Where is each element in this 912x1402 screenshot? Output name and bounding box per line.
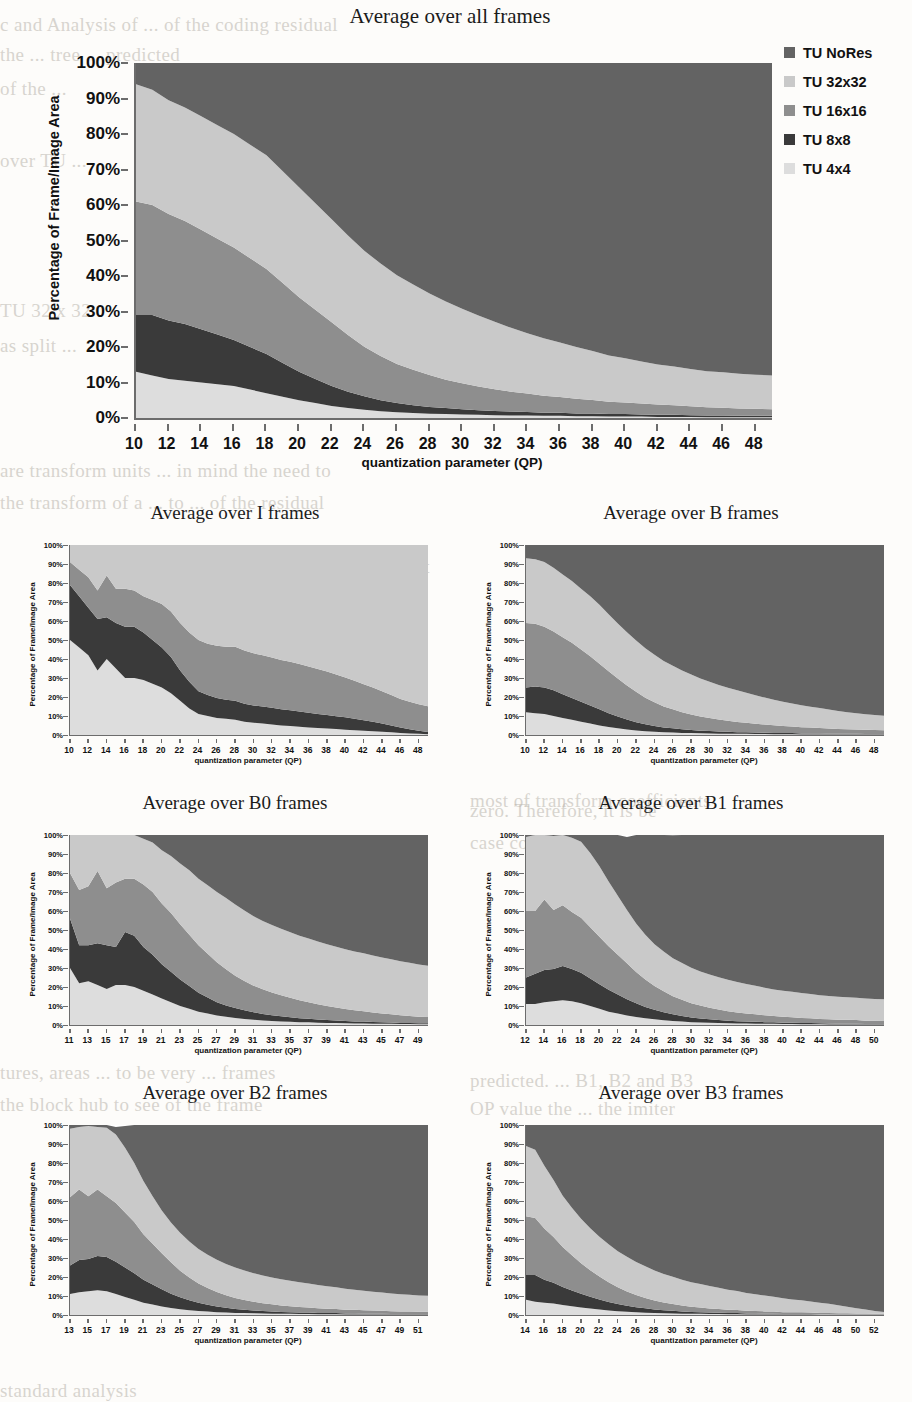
y-tick-label: 90% xyxy=(504,560,519,569)
x-tick-label: 29 xyxy=(229,1035,238,1045)
x-tick-label: 37 xyxy=(303,1035,312,1045)
x-tick-mark xyxy=(234,739,236,743)
x-tick-mark xyxy=(819,1029,821,1033)
legend-item-tu-4x4[interactable]: TU 4x4 xyxy=(784,154,912,183)
x-tick-mark xyxy=(395,424,397,431)
y-tick-mark xyxy=(63,1258,68,1260)
x-tick-mark xyxy=(709,1319,711,1323)
x-tick-mark xyxy=(363,739,365,743)
x-tick-mark xyxy=(69,1029,71,1033)
x-tick-mark xyxy=(617,739,619,743)
y-tick-mark xyxy=(519,545,524,547)
x-tick-mark xyxy=(591,424,593,431)
x-tick-mark xyxy=(493,424,495,431)
x-tick-mark xyxy=(297,424,299,431)
y-tick-mark xyxy=(63,621,68,623)
x-tick-mark xyxy=(598,1319,600,1323)
y-tick-label: 80% xyxy=(504,1159,519,1168)
x-tick-mark xyxy=(363,1029,365,1033)
x-tick-mark xyxy=(525,424,527,431)
stacked-area-series xyxy=(70,1125,428,1315)
y-tick-label: 40% xyxy=(48,1235,63,1244)
y-tick-mark xyxy=(519,1006,524,1008)
x-tick-mark xyxy=(672,739,674,743)
y-tick-label: 50% xyxy=(86,231,120,251)
legend-item-label: TU 8x8 xyxy=(803,132,851,148)
y-tick-label: 40% xyxy=(86,266,120,286)
x-tick-label: 21 xyxy=(138,1325,147,1335)
x-tick-label: 22 xyxy=(630,745,639,755)
x-tick-mark xyxy=(617,1029,619,1033)
x-tick-mark xyxy=(399,739,401,743)
x-tick-mark xyxy=(745,1029,747,1033)
x-tick-label: 46 xyxy=(832,1035,841,1045)
chart-xlabel: quantization parameter (QP) xyxy=(525,1046,883,1055)
x-tick-label: 38 xyxy=(759,1035,768,1045)
x-tick-label: 32 xyxy=(484,435,502,453)
chart-all-frames: Average over all frames Percentage of Fr… xyxy=(0,0,912,485)
legend-item-tu-16x16[interactable]: TU 16x16 xyxy=(784,96,912,125)
y-tick-label: 100% xyxy=(44,541,63,550)
x-tick-label: 27 xyxy=(193,1325,202,1335)
y-tick-mark xyxy=(63,1163,68,1165)
y-tick-mark xyxy=(63,930,68,932)
legend-item-tu-32x32[interactable]: TU 32x32 xyxy=(784,67,912,96)
x-tick-label: 34 xyxy=(741,745,750,755)
y-tick-mark xyxy=(519,930,524,932)
x-tick-label: 16 xyxy=(575,745,584,755)
y-tick-mark xyxy=(63,911,68,913)
chart-all-frames-title: Average over all frames xyxy=(150,4,750,29)
y-tick-mark xyxy=(519,1201,524,1203)
y-tick-mark xyxy=(63,949,68,951)
y-tick-label: 60% xyxy=(86,195,120,215)
x-tick-label: 52 xyxy=(869,1325,878,1335)
x-tick-label: 10 xyxy=(64,745,73,755)
x-tick-label: 31 xyxy=(248,1035,257,1045)
y-tick-mark xyxy=(519,911,524,913)
y-tick-mark xyxy=(63,1220,68,1222)
y-tick-label: 20% xyxy=(48,983,63,992)
y-tick-label: 10% xyxy=(48,1292,63,1301)
x-tick-label: 18 xyxy=(594,745,603,755)
x-tick-label: 44 xyxy=(814,1035,823,1045)
legend-item-tu-nores[interactable]: TU NoRes xyxy=(784,38,912,67)
x-tick-mark xyxy=(399,1319,401,1323)
y-ticks: 0%10%20%30%40%50%60%70%80%90%100% xyxy=(22,1120,67,1320)
x-tick-mark xyxy=(106,739,108,743)
x-tick-mark xyxy=(326,739,328,743)
y-tick-label: 80% xyxy=(48,1159,63,1168)
y-tick-label: 50% xyxy=(504,1216,519,1225)
x-tick-mark xyxy=(179,1029,181,1033)
chart-all-frames-plot-area xyxy=(134,63,772,420)
x-tick-mark xyxy=(855,739,857,743)
x-tick-mark xyxy=(216,739,218,743)
y-tick-label: 70% xyxy=(504,888,519,897)
x-tick-label: 46 xyxy=(814,1325,823,1335)
x-tick-mark xyxy=(142,739,144,743)
x-tick-mark xyxy=(690,1319,692,1323)
x-tick-mark xyxy=(855,1319,857,1323)
y-tick-label: 60% xyxy=(504,1197,519,1206)
x-tick-label: 44 xyxy=(680,435,698,453)
legend-item-tu-8x8[interactable]: TU 8x8 xyxy=(784,125,912,154)
y-tick-mark xyxy=(63,835,68,837)
chart-all-frames-y-ticks: 0%10%20%30%40%50%60%70%80%90%100% xyxy=(36,55,128,427)
y-tick-label: 20% xyxy=(86,337,120,357)
stacked-area-series xyxy=(526,835,884,1025)
x-tick-mark xyxy=(837,1319,839,1323)
x-tick-mark xyxy=(690,1029,692,1033)
x-tick-label: 29 xyxy=(211,1325,220,1335)
x-tick-mark xyxy=(87,1319,89,1323)
x-tick-mark xyxy=(617,1319,619,1323)
x-tick-mark xyxy=(142,1319,144,1323)
x-tick-mark xyxy=(782,1029,784,1033)
x-tick-label: 24 xyxy=(612,1325,621,1335)
x-tick-label: 28 xyxy=(229,745,238,755)
y-tick-mark xyxy=(121,169,128,171)
x-tick-mark xyxy=(234,1029,236,1033)
x-tick-label: 49 xyxy=(413,1035,422,1045)
x-tick-label: 48 xyxy=(851,1035,860,1045)
y-ticks: 0%10%20%30%40%50%60%70%80%90%100% xyxy=(478,830,523,1030)
x-tick-label: 40 xyxy=(777,1035,786,1045)
x-tick-mark xyxy=(623,424,625,431)
